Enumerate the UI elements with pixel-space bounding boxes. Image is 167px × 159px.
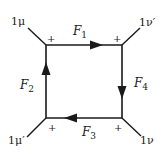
sign-top-left: + (47, 33, 55, 44)
leg-top-right (122, 28, 140, 45)
edge-label-right: F4 (133, 76, 148, 92)
arrow-left-icon (64, 114, 77, 123)
arrowheads (42, 41, 127, 123)
edge-label-bottom: F3 (81, 125, 96, 141)
edge-label-right-sub: 4 (142, 82, 148, 92)
leg-bottom-right (122, 118, 141, 136)
sign-top-right: + (113, 33, 121, 44)
corner-label-bottom-right: 1ν (140, 134, 154, 147)
edge-label-bottom-sub: 3 (90, 131, 96, 141)
arrow-up-icon (42, 62, 51, 75)
corner-label-top-right: 1ν′ (139, 16, 156, 29)
edge-label-top: F1 (72, 24, 87, 40)
box-edges (46, 45, 122, 118)
arrow-right-icon (90, 41, 103, 50)
box-diagram: + + + + 1μ 1ν′ 1ν 1μ′ F1 F2 F3 F4 (0, 0, 167, 159)
arrow-down-icon (118, 86, 127, 99)
edge-label-left: F2 (19, 78, 34, 94)
edge-label-left-sub: 2 (28, 84, 34, 94)
corner-label-bottom-left: 1μ′ (8, 134, 25, 147)
corner-label-top-left: 1μ (11, 15, 25, 28)
leg-top-left (28, 28, 46, 45)
sign-bottom-right: + (114, 122, 122, 133)
sign-bottom-left: + (48, 122, 56, 133)
edge-label-top-sub: 1 (81, 30, 87, 40)
leg-bottom-left (27, 118, 46, 137)
